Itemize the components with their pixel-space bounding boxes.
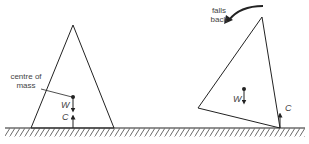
falls-back-label: falls back: [208, 6, 230, 24]
tipping-triangle: [198, 17, 280, 128]
ground: [5, 128, 305, 137]
contact-label: C: [62, 113, 69, 122]
falls-back-label-line1: falls: [208, 6, 230, 15]
weight-label-tilted: W: [233, 95, 242, 104]
diagram-canvas: [0, 0, 309, 144]
centre-of-mass-label-line1: centre of: [6, 72, 46, 81]
falls-back-label-line2: back: [208, 15, 230, 24]
contact-label-tilted: C: [285, 104, 292, 113]
weight-label: W: [61, 101, 70, 110]
centre-of-mass-label: centre of mass: [6, 72, 46, 90]
centre-of-mass-label-line2: mass: [6, 81, 46, 90]
